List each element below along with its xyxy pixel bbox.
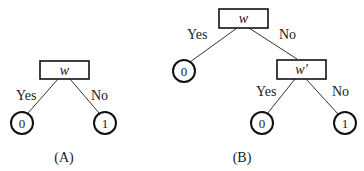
tree-b-root-leaf-yes-value: 0 xyxy=(181,64,188,79)
tree-b-root-node: w xyxy=(219,9,268,28)
tree-a-yes-label: Yes xyxy=(16,88,36,103)
tree-a-leaf-yes: 0 xyxy=(11,112,33,134)
tree-a-caption: (A) xyxy=(54,150,74,166)
tree-a: w Yes No 0 1 (A) xyxy=(11,61,116,166)
tree-b-child-leaf-no: 1 xyxy=(334,112,356,134)
tree-b-child-leaf-no-value: 1 xyxy=(342,116,349,131)
tree-a-root-node: w xyxy=(40,61,89,79)
tree-b-child-label: w′ xyxy=(295,62,308,77)
tree-b-child-yes-label: Yes xyxy=(256,84,276,99)
tree-b: w Yes No 0 w′ Yes No 0 1 (B) xyxy=(173,9,356,166)
tree-a-leaf-yes-value: 0 xyxy=(19,116,26,131)
tree-a-leaf-no: 1 xyxy=(94,112,116,134)
tree-b-root-no-label: No xyxy=(279,27,296,42)
tree-b-root-label: w xyxy=(239,11,249,26)
tree-b-root-yes-label: Yes xyxy=(187,27,207,42)
tree-b-child-no-label: No xyxy=(332,84,349,99)
tree-a-root-label: w xyxy=(60,63,70,78)
tree-b-child-leaf-yes-value: 0 xyxy=(259,116,266,131)
tree-b-child-leaf-yes: 0 xyxy=(251,112,273,134)
tree-b-caption: (B) xyxy=(233,150,252,166)
tree-a-leaf-no-value: 1 xyxy=(102,116,109,131)
tree-b-root-leaf-yes: 0 xyxy=(173,60,195,82)
decision-tree-figure: w Yes No 0 1 (A) w Yes No 0 xyxy=(0,0,364,171)
tree-b-child-node: w′ xyxy=(277,60,326,79)
tree-a-no-label: No xyxy=(91,88,108,103)
